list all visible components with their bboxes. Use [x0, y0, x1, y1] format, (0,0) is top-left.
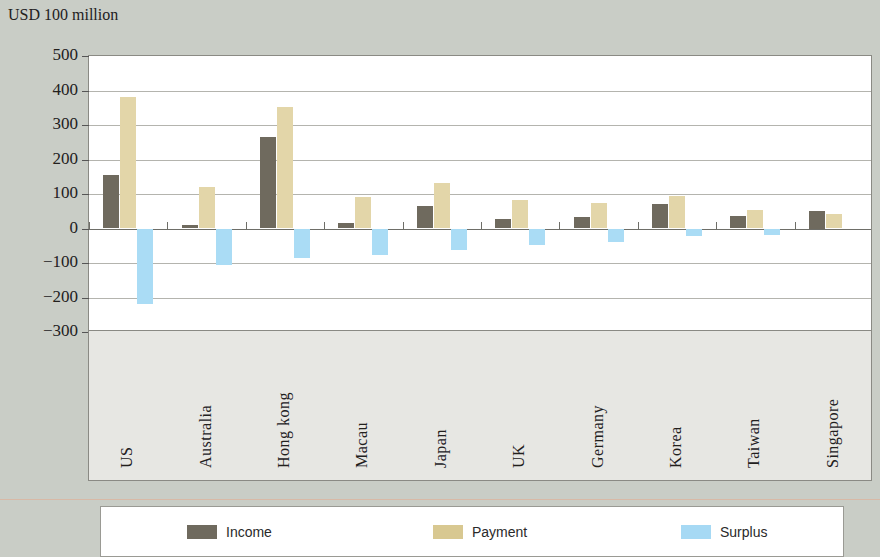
legend-swatch-surplus-icon [681, 525, 711, 539]
legend-swatch-income-icon [187, 525, 217, 539]
bar-surplus [137, 229, 153, 305]
x-axis-tick [559, 222, 560, 229]
bar-income [103, 175, 119, 228]
legend-label: Income [226, 524, 272, 540]
x-axis-category-label: UK [510, 444, 528, 468]
bar-payment [277, 107, 293, 228]
y-axis-tick-label: 400 [53, 80, 79, 100]
x-axis-category-label: Korea [667, 426, 685, 468]
bar-income [260, 137, 276, 228]
bar-income [809, 211, 825, 228]
y-axis-title: USD 100 million [8, 6, 118, 24]
bar-income [730, 216, 746, 228]
x-axis-category-label: Japan [432, 429, 450, 468]
bar-payment [669, 196, 685, 228]
bar-payment [120, 97, 136, 228]
bar-payment [512, 200, 528, 228]
x-axis-category-label: US [118, 447, 136, 468]
y-axis-tick-label: −200 [43, 287, 78, 307]
plot-area [88, 55, 872, 331]
y-axis-tick [82, 56, 89, 57]
gridline [89, 125, 871, 126]
bar-income [652, 204, 668, 228]
y-axis-tick-label: 0 [70, 218, 79, 238]
legend-item-income[interactable]: Income [187, 524, 272, 540]
chart-legend: IncomePaymentSurplus [100, 506, 844, 557]
y-axis-tick [82, 229, 89, 230]
x-axis-tick [89, 222, 90, 229]
bar-payment [355, 197, 371, 229]
bar-payment [591, 203, 607, 228]
legend-label: Payment [472, 524, 527, 540]
bar-income [417, 206, 433, 228]
x-axis-category-label: Hong kong [275, 392, 293, 468]
legend-item-payment[interactable]: Payment [433, 524, 527, 540]
x-axis-category-label: Singapore [824, 399, 842, 468]
x-axis-category-label: Australia [197, 405, 215, 468]
x-axis-tick [716, 222, 717, 229]
bar-surplus [372, 229, 388, 256]
bar-surplus [686, 229, 702, 237]
chart-canvas: USD 100 million USAustraliaHong kongMaca… [0, 0, 880, 557]
bar-surplus [216, 229, 232, 265]
x-axis-tick [481, 222, 482, 229]
y-axis-tick-label: 300 [53, 114, 79, 134]
bar-surplus [529, 229, 545, 246]
y-axis-tick [82, 91, 89, 92]
bar-income [182, 225, 198, 228]
gridline [89, 229, 871, 230]
bar-income [574, 217, 590, 228]
bar-income [495, 219, 511, 229]
gridline [89, 298, 871, 299]
plot-background [88, 55, 872, 331]
bar-payment [199, 187, 215, 228]
x-axis-tick [246, 222, 247, 229]
divider-line [0, 499, 880, 500]
y-axis-tick [82, 125, 89, 126]
y-axis-tick [82, 263, 89, 264]
legend-label: Surplus [720, 524, 767, 540]
bar-surplus [294, 229, 310, 258]
x-axis-tick [795, 222, 796, 229]
gridline [89, 263, 871, 264]
x-axis-category-label: Macau [353, 422, 371, 468]
gridline [89, 160, 871, 161]
y-axis-tick-label: −300 [43, 321, 78, 341]
legend-item-surplus[interactable]: Surplus [681, 524, 767, 540]
bar-payment [747, 210, 763, 229]
bar-surplus [451, 229, 467, 250]
bar-payment [826, 214, 842, 229]
bar-surplus [608, 229, 624, 242]
x-axis-tick [324, 222, 325, 229]
bar-income [338, 223, 354, 228]
x-axis-tick [167, 222, 168, 229]
x-axis-category-label: Taiwan [745, 418, 763, 468]
y-axis-tick [82, 298, 89, 299]
y-axis-tick [82, 160, 89, 161]
y-axis-tick-label: 500 [53, 45, 79, 65]
category-label-band: USAustraliaHong kongMacauJapanUKGermanyK… [88, 331, 872, 481]
y-axis-tick-label: 200 [53, 149, 79, 169]
y-axis-tick-label: −100 [43, 252, 78, 272]
bar-payment [434, 183, 450, 229]
gridline [89, 91, 871, 92]
legend-swatch-payment-icon [433, 525, 463, 539]
y-axis-tick-label: 100 [53, 183, 79, 203]
x-axis-category-label: Germany [589, 405, 607, 468]
x-axis-tick [403, 222, 404, 229]
x-axis-tick [638, 222, 639, 229]
bar-surplus [764, 229, 780, 235]
y-axis-tick [82, 194, 89, 195]
